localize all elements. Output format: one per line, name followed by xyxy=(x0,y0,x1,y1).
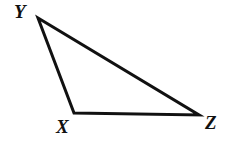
vertex-label-x: X xyxy=(56,117,69,136)
triangle-shape xyxy=(0,0,235,144)
vertex-label-z: Z xyxy=(205,113,217,132)
triangle-figure: Y X Z xyxy=(0,0,235,144)
triangle-outline xyxy=(38,18,199,115)
vertex-label-y: Y xyxy=(14,2,26,21)
